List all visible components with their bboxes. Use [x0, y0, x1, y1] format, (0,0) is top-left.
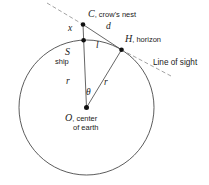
- line-of-sight-segment: [83, 25, 122, 50]
- surface-distance-label: l: [96, 40, 99, 50]
- line-of-sight-dashed-upper: [47, 3, 83, 25]
- earth-center-symbol: O: [65, 112, 72, 123]
- radius-right-label: r: [104, 77, 108, 87]
- radius-left-label: r: [66, 76, 70, 86]
- horizon-label: H, horizon: [124, 33, 161, 44]
- earth-horizon-diagram: C, crow's nest x d H, horizon Line of si…: [0, 0, 209, 185]
- horizon-caption: , horizon: [132, 35, 161, 44]
- horizon-point: [119, 48, 124, 53]
- central-angle-label: θ: [86, 87, 91, 97]
- diagram-canvas: C, crow's nest x d H, horizon Line of si…: [0, 0, 209, 185]
- line-of-sight-label: Line of sight: [153, 58, 198, 67]
- earth-center-caption-line2: of earth: [73, 123, 98, 132]
- crows-nest-caption: , crow's nest: [95, 10, 137, 19]
- ship-point: [81, 38, 86, 43]
- earth-center-point: [84, 105, 89, 110]
- mast-height-label: x: [67, 23, 73, 33]
- crows-nest-label: C, crow's nest: [88, 8, 137, 19]
- ship-caption: ship: [55, 57, 69, 66]
- earth-center-caption: , center: [72, 114, 98, 123]
- earth-center-label: O, center: [65, 112, 98, 123]
- ship-symbol: S: [65, 46, 70, 57]
- crows-nest-point: [81, 22, 86, 27]
- sight-distance-label: d: [106, 21, 111, 31]
